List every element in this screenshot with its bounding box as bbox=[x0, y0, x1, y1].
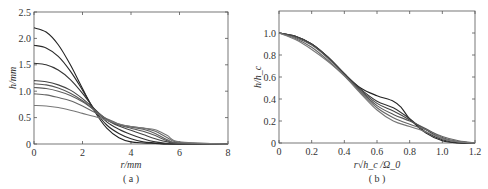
subfigure-caption: ( a ) bbox=[123, 173, 139, 185]
y-tick-label: 2.5 bbox=[19, 7, 32, 18]
x-tick-label: 0.2 bbox=[305, 146, 318, 157]
plot-frame bbox=[279, 11, 475, 143]
x-tick-label: 2 bbox=[80, 147, 85, 158]
data-series bbox=[279, 33, 475, 143]
x-tick-label: 1.2 bbox=[469, 146, 482, 157]
x-tick-label: 4 bbox=[129, 147, 134, 158]
subfigure-caption: ( b ) bbox=[369, 173, 386, 185]
x-tick-label: 8 bbox=[226, 147, 231, 158]
x-tick-label: 0 bbox=[32, 147, 37, 158]
data-series bbox=[34, 45, 228, 144]
data-series bbox=[279, 33, 475, 143]
figure: 0246800.51.01.52.02.5r/mmh/mm( a )00.20.… bbox=[0, 0, 488, 189]
y-tick-label: 0.5 bbox=[19, 112, 32, 123]
data-series bbox=[34, 88, 228, 144]
x-tick-label: 0.4 bbox=[338, 146, 351, 157]
y-tick-label: 0.8 bbox=[264, 50, 277, 61]
x-tick-label: 0 bbox=[277, 146, 282, 157]
y-tick-label: 0.2 bbox=[264, 116, 277, 127]
plot-frame bbox=[34, 12, 228, 144]
chart-a: 0246800.51.01.52.02.5r/mmh/mm( a ) bbox=[7, 7, 231, 186]
x-tick-label: 0.6 bbox=[371, 146, 384, 157]
y-tick-label: 1.0 bbox=[19, 86, 32, 97]
x-axis-label: r/mm bbox=[120, 159, 141, 170]
data-series bbox=[34, 94, 228, 144]
x-tick-label: 0.8 bbox=[403, 146, 416, 157]
y-tick-label: 0.6 bbox=[264, 72, 277, 83]
y-tick-label: 1.0 bbox=[264, 28, 277, 39]
y-tick-label: 1.5 bbox=[19, 59, 32, 70]
y-tick-label: 0 bbox=[26, 139, 31, 150]
data-series bbox=[279, 33, 475, 143]
data-series bbox=[34, 63, 228, 144]
x-axis-label: r√h_c /Ω_0 bbox=[354, 159, 400, 170]
y-tick-label: 2.0 bbox=[19, 33, 32, 44]
y-axis-label: h/h_c bbox=[252, 65, 263, 88]
data-series bbox=[279, 33, 475, 143]
data-series bbox=[279, 33, 475, 143]
chart-b: 00.20.40.60.81.01.200.20.40.60.81.0r√h_c… bbox=[252, 11, 481, 185]
y-tick-label: 0 bbox=[271, 138, 276, 149]
x-tick-label: 6 bbox=[177, 147, 182, 158]
y-axis-label: h/mm bbox=[7, 67, 18, 89]
y-tick-label: 0.4 bbox=[264, 94, 277, 105]
data-series bbox=[279, 33, 475, 143]
x-tick-label: 1.0 bbox=[436, 146, 449, 157]
